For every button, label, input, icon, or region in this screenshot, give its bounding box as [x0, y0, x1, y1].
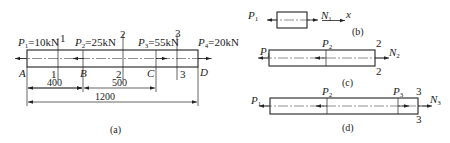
force-label-p2: P2: [321, 85, 333, 99]
force-label-p3: P3: [392, 85, 404, 99]
point-label-d: D: [199, 66, 208, 78]
section-label-3-top: 3: [175, 27, 181, 39]
dim-label-400: 400: [47, 77, 62, 88]
point-label-a: A: [18, 67, 26, 79]
load-label-p2: P2=25kN: [74, 36, 116, 50]
force-label-n3: N3: [429, 93, 441, 107]
section-label-2-bottom: 2: [376, 65, 382, 77]
force-label-p2: P2: [321, 37, 333, 51]
load-label-p3: P3=55kN: [137, 36, 179, 50]
caption-b: (b): [352, 26, 364, 38]
axial-bar-diagram: P1=10kN P2=25kN P3=55kN P4=20kN 1 2 3 A …: [0, 0, 450, 143]
caption-d: (d): [342, 122, 354, 134]
caption-a: (a): [110, 124, 121, 136]
section-label-2-top: 2: [120, 28, 126, 40]
section-label-3-bottom: 3: [416, 113, 422, 125]
dim-label-500: 500: [112, 77, 127, 88]
force-label-p1: P1: [259, 45, 271, 59]
figure-d: P1 P2 P3 N3 3 3 (d): [250, 85, 441, 134]
figure-b: P1 N1 x (b): [247, 8, 364, 38]
section-label-3-bottom: 3: [180, 68, 186, 80]
load-label-p4: P4=20kN: [197, 36, 239, 50]
section-label-1-top: 1: [60, 32, 66, 44]
force-label-p1: P1: [247, 9, 259, 23]
figure-c: P1 P2 N2 2 2 (c): [258, 37, 400, 89]
section-label-3-top: 3: [416, 85, 422, 97]
point-label-c: C: [147, 67, 155, 79]
figure-a: P1=10kN P2=25kN P3=55kN P4=20kN 1 2 3 A …: [15, 27, 239, 136]
dim-label-1200: 1200: [95, 91, 115, 102]
force-label-n2: N2: [388, 46, 400, 60]
x-axis-label: x: [345, 8, 351, 20]
load-label-p1: P1=10kN: [17, 36, 59, 50]
section-label-2-top: 2: [376, 37, 382, 49]
force-label-p1: P1: [250, 94, 262, 108]
caption-c: (c): [342, 77, 353, 89]
point-label-b: B: [80, 67, 87, 79]
